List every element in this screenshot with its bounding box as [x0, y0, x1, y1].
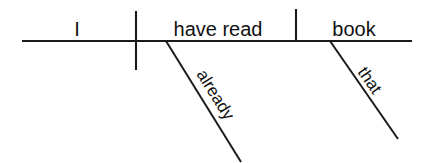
word-direct-object: book	[332, 18, 376, 40]
word-verb: have read	[174, 18, 263, 40]
word-subject: I	[74, 18, 80, 40]
adjective-slant-line-that	[330, 41, 398, 139]
sentence-diagram-canvas: I have read book already that	[0, 0, 429, 163]
sentence-diagram-svg: I have read book already that	[0, 0, 429, 163]
word-modifier-that: that	[354, 63, 386, 97]
